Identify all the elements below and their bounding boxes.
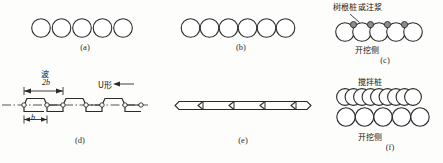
interlock-joint (45, 103, 49, 107)
pile-circle (411, 108, 429, 126)
interlock-joint (61, 103, 65, 107)
pile-circle (52, 19, 71, 38)
panel-d (0, 86, 150, 128)
caption-d: (d) (35, 135, 125, 145)
label-root-pile-or-grouting: 树根桩或注浆 (333, 1, 382, 12)
dimension-b: b (31, 113, 35, 122)
pile-circle (355, 108, 373, 126)
grout-node (350, 22, 356, 28)
panel-e-diagram (173, 98, 313, 118)
mixing-pile-circle (405, 89, 422, 106)
profile-lower-flange (24, 105, 44, 112)
label-mixing-pile: 搅拌桩 (358, 76, 383, 87)
panel-a-diagram (30, 16, 140, 40)
panel-d-diagram (0, 86, 150, 128)
panel-a (30, 16, 140, 40)
dimension-arrow (41, 117, 47, 121)
mixing-pile-row (337, 89, 422, 106)
panel-c (333, 12, 439, 46)
pile-circle (238, 19, 257, 38)
pile-circle (114, 19, 133, 38)
pile-circle (181, 19, 200, 38)
caption-e: (e) (198, 135, 288, 145)
caption-f: (f) (345, 142, 435, 152)
caption-b: (b) (196, 42, 286, 52)
pile-circle (374, 108, 392, 126)
caption-a: (a) (40, 42, 130, 52)
pile-circle (32, 19, 51, 38)
dimension-arrow (24, 117, 30, 121)
grout-node (367, 22, 373, 28)
panel-c-diagram (333, 12, 439, 46)
panel-f-diagram (333, 87, 441, 131)
pile-circle (276, 19, 295, 38)
dimension-arrow (24, 89, 31, 94)
caption-c: (c) (340, 55, 430, 65)
pile-circle (257, 19, 276, 38)
pile-circle (93, 19, 112, 38)
pile-circle (219, 19, 238, 38)
interlock-joint (139, 103, 143, 107)
dimension-arrow (56, 89, 63, 94)
grout-node (401, 22, 407, 28)
pile-circle (392, 108, 410, 126)
panel-f (333, 87, 441, 131)
interlock-joint (123, 103, 127, 107)
figure-root: (a) (b) 树根桩或注浆 (0, 0, 443, 163)
label-excavation-side-c: 开挖侧 (355, 44, 380, 55)
callout-arrowhead (113, 82, 120, 87)
interlock-joint (84, 103, 88, 107)
panel-b (180, 16, 302, 40)
pile-circle (337, 108, 355, 126)
interlock-joint (100, 103, 104, 107)
pile-circle (73, 19, 92, 38)
bearing-pile-row (337, 108, 429, 126)
panel-e (173, 98, 313, 118)
grout-node (384, 22, 390, 28)
label-excavation-side-f: 开挖侧 (358, 131, 383, 142)
interlock-joint (22, 103, 26, 107)
leader-line (350, 14, 360, 23)
panel-b-diagram (180, 16, 302, 40)
pile-circle (200, 19, 219, 38)
